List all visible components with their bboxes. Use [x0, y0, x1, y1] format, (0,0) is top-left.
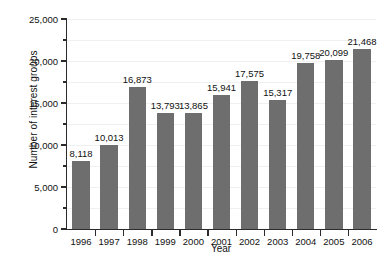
- bar-value-label: 15,317: [263, 87, 292, 98]
- bar: [213, 95, 230, 229]
- bar-value-label: 15,941: [207, 82, 236, 93]
- y-axis-minor-tick: [63, 123, 67, 124]
- grid-line: [67, 40, 376, 41]
- y-axis-tick-label: 0: [53, 224, 58, 235]
- bar-value-label: 13,865: [179, 100, 208, 111]
- y-axis-tick: [61, 144, 67, 145]
- plot-area: 8,11810,01316,87313,79313,86515,94117,57…: [67, 19, 376, 229]
- x-axis-tick: [151, 230, 152, 236]
- x-axis-tick: [207, 230, 208, 236]
- y-axis-tick: [61, 228, 67, 229]
- bar-value-label: 8,118: [69, 148, 92, 159]
- y-axis-tick: [61, 18, 67, 19]
- x-axis-tick: [95, 230, 96, 236]
- bar: [269, 100, 286, 229]
- y-axis-minor-tick: [63, 81, 67, 82]
- y-axis-minor-tick: [63, 207, 67, 208]
- y-axis-minor-tick: [63, 39, 67, 40]
- x-axis-tick: [123, 230, 124, 236]
- x-axis-tick: [236, 230, 237, 236]
- grid-line: [67, 19, 376, 20]
- x-axis-line: [66, 229, 377, 230]
- bar-value-label: 17,575: [235, 68, 264, 79]
- x-axis-tick: [264, 230, 265, 236]
- bar-value-label: 13,793: [151, 100, 180, 111]
- bar-value-label: 19,758: [291, 50, 320, 61]
- bar: [325, 60, 342, 229]
- bar: [129, 87, 146, 229]
- x-axis-tick: [320, 230, 321, 236]
- bar-chart: 8,11810,01316,87313,79313,86515,94117,57…: [0, 0, 385, 262]
- bar: [297, 63, 314, 229]
- x-axis-tick: [348, 230, 349, 236]
- bar: [100, 145, 117, 229]
- y-axis-tick: [61, 60, 67, 61]
- bar-value-label: 10,013: [95, 132, 124, 143]
- y-axis-tick: [61, 102, 67, 103]
- x-axis-tick: [179, 230, 180, 236]
- y-axis-tick: [61, 186, 67, 187]
- bar: [241, 81, 258, 229]
- bar-value-label: 21,468: [347, 36, 376, 47]
- bar-value-label: 20,099: [319, 47, 348, 58]
- bar-value-label: 16,873: [123, 74, 152, 85]
- bar: [72, 161, 89, 229]
- bar: [353, 49, 370, 229]
- x-axis-tick: [292, 230, 293, 236]
- x-axis-title: Year: [66, 243, 376, 254]
- y-axis-minor-tick: [63, 165, 67, 166]
- bar: [185, 113, 202, 229]
- y-axis-title: Number of interest groups: [28, 15, 39, 205]
- bar: [157, 113, 174, 229]
